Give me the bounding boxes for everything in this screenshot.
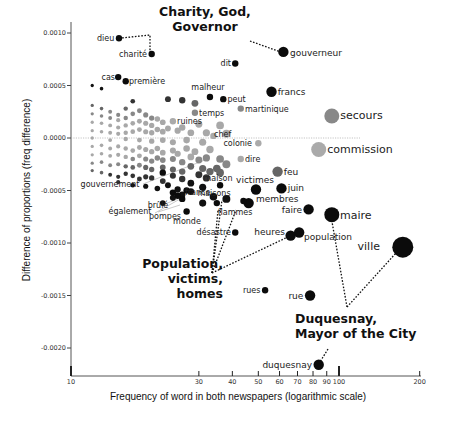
data-point	[149, 123, 154, 128]
data-point	[195, 171, 202, 178]
point-label-heures: heures	[254, 227, 285, 237]
y-tick-label: 0.0000	[43, 134, 66, 142]
data-point	[123, 164, 127, 168]
data-point	[160, 119, 166, 125]
point-label-peut: peut	[227, 95, 245, 104]
data-point	[91, 145, 94, 148]
x-tick-label: 100	[333, 378, 345, 386]
point-label-secours: secours	[340, 109, 383, 122]
data-point	[179, 97, 185, 103]
data-point	[216, 122, 224, 130]
data-point	[108, 154, 112, 158]
data-point	[130, 129, 135, 134]
data-point	[206, 146, 213, 153]
point-label-martinique: martinique	[245, 105, 289, 114]
data-point	[199, 200, 206, 207]
data-point	[187, 180, 194, 187]
point-label-feu: feu	[284, 167, 298, 177]
x-tick-label: 70	[293, 378, 301, 386]
data-point	[155, 127, 161, 133]
annotation-line: victims,	[168, 271, 223, 286]
data-point	[108, 163, 112, 167]
data-point	[149, 175, 154, 180]
point-label-dieu: dieu	[97, 34, 114, 43]
x-tick-label: 80	[309, 378, 317, 386]
y-tick-label: 0.0010	[43, 29, 66, 37]
data-point	[123, 137, 127, 141]
data-point	[130, 99, 135, 104]
data-point	[100, 87, 104, 91]
data-point	[91, 112, 94, 115]
data-point-ville	[392, 237, 413, 258]
data-point	[91, 153, 94, 156]
data-point	[137, 138, 142, 143]
data-point	[170, 156, 176, 162]
data-point-dire	[238, 156, 244, 162]
data-point	[149, 158, 154, 163]
data-point	[165, 126, 171, 132]
y-tick-label: 0.0005	[43, 82, 66, 90]
data-point	[123, 116, 127, 120]
data-point-désastre	[232, 229, 238, 235]
data-point-faire	[303, 204, 313, 214]
data-point	[165, 182, 171, 188]
annotation-line: Mayor of the City	[295, 326, 416, 341]
point-label-juin: juin	[287, 183, 304, 193]
data-point-martinique	[238, 105, 244, 111]
data-point	[116, 132, 120, 136]
point-label-population: population	[304, 232, 352, 242]
data-point	[91, 104, 94, 107]
data-point	[160, 165, 166, 171]
point-label-désastre: désastre	[197, 227, 231, 237]
annotation-line: Duquesnay,	[295, 311, 377, 326]
y-tick-label: -0.0020	[41, 344, 66, 352]
data-point-duquesnay	[314, 360, 324, 370]
data-point-juin	[276, 183, 286, 193]
data-point	[183, 137, 190, 144]
data-point	[100, 160, 104, 164]
data-point-dit	[232, 60, 238, 66]
data-point	[160, 157, 166, 163]
data-point	[108, 116, 112, 120]
point-label-malheur: malheur	[191, 83, 225, 92]
data-point-commission	[311, 142, 326, 157]
connector-duquesnay	[321, 349, 328, 361]
data-point-feu	[272, 166, 282, 176]
data-point	[149, 115, 154, 120]
data-point	[195, 157, 202, 164]
data-point-première	[123, 78, 129, 84]
data-point	[160, 150, 166, 156]
data-point	[170, 139, 176, 145]
data-point	[116, 175, 120, 179]
data-point	[130, 165, 135, 170]
connector-ville	[347, 253, 396, 307]
data-point-temps	[192, 110, 198, 116]
data-point-également	[170, 189, 176, 195]
point-label-cas: cas	[102, 73, 115, 82]
data-point-malheur	[207, 94, 213, 100]
data-point	[116, 113, 120, 117]
data-point	[91, 129, 94, 132]
y-tick-label: -0.0015	[41, 292, 66, 300]
data-point	[199, 165, 206, 172]
connector-gouverneur	[250, 41, 280, 52]
data-point-monde	[183, 208, 189, 214]
x-tick-label: 50	[254, 378, 262, 386]
data-point	[155, 116, 161, 122]
data-point	[149, 149, 154, 154]
point-label-flammes: flammes	[218, 208, 253, 217]
data-point	[143, 174, 148, 179]
data-point	[123, 171, 127, 175]
data-point	[130, 112, 135, 117]
data-point	[116, 153, 120, 157]
data-point	[179, 159, 185, 165]
x-tick-label: 200	[413, 378, 425, 386]
data-point	[187, 154, 194, 161]
data-point	[216, 155, 224, 163]
data-point	[160, 137, 166, 143]
data-point	[137, 145, 142, 150]
point-label-francs: francs	[278, 87, 306, 97]
data-point-maison	[217, 182, 223, 188]
x-tick-label: 10	[67, 378, 75, 386]
data-point	[183, 145, 190, 152]
